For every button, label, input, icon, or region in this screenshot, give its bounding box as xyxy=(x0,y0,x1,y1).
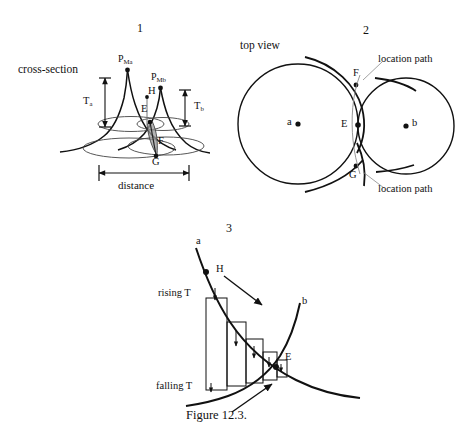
peak-a-subscript: Ma xyxy=(124,58,133,65)
panel-2-view-label: top view xyxy=(240,40,280,52)
figure-container: 1 cross-section PMa PMb Ta Tb H E F G di… xyxy=(0,0,457,440)
panel-2-point-f-label: F xyxy=(353,68,359,79)
panel-2-number: 2 xyxy=(363,24,369,36)
arrow-from-h xyxy=(224,276,262,305)
panel-1-cross-section xyxy=(60,68,210,181)
panel-2-point-e-label: E xyxy=(341,119,347,130)
falling-t-label: falling T xyxy=(156,381,192,392)
panel-2-point-g-label: G xyxy=(349,170,357,181)
rising-t-label: rising T xyxy=(158,288,191,299)
curve-a-label: a xyxy=(196,236,201,247)
peak-a-label: PMa xyxy=(118,54,133,64)
center-b-dot xyxy=(403,123,408,128)
peak-a-left-flank xyxy=(60,70,128,152)
panel-1-view-label: cross-section xyxy=(18,64,78,76)
thickness-b-label: Tb xyxy=(194,101,204,112)
location-path-label-top: location path xyxy=(378,54,433,65)
thickness-a-label: Ta xyxy=(83,96,92,107)
panel-1-point-e-label: E xyxy=(141,104,147,115)
contour-ellipse-b-upper xyxy=(137,118,189,131)
point-e-dot xyxy=(148,120,153,125)
peak-a-summit-dot xyxy=(125,68,130,73)
point-e-dot xyxy=(273,364,279,370)
curve-b-label: b xyxy=(302,296,307,307)
panel-1-point-g-label: G xyxy=(152,157,160,168)
panel-1-point-h-label: H xyxy=(148,86,156,97)
panel-1-number: 1 xyxy=(137,22,143,34)
panel-1-point-f-label: F xyxy=(158,136,164,147)
thickness-a-subscript: a xyxy=(89,100,92,107)
peak-b-summit-dot xyxy=(158,86,163,91)
panel-3-point-h-label: H xyxy=(216,264,224,275)
staircase-rectangles xyxy=(206,298,287,390)
peak-b-letter: P xyxy=(151,71,157,82)
circle-a-label: a xyxy=(287,117,292,128)
peak-a-letter: P xyxy=(118,53,124,64)
panel-3-detail xyxy=(186,248,360,412)
center-a-dot xyxy=(295,121,300,126)
point-e-dot xyxy=(355,122,361,128)
peak-b-subscript: Mb xyxy=(157,76,166,83)
panel-3-number: 3 xyxy=(226,222,232,234)
figure-caption: Figure 12.3. xyxy=(186,409,247,422)
leader-line-location-path-top xyxy=(363,62,382,80)
location-path-label-bottom: location path xyxy=(378,184,433,195)
thickness-b-subscript: b xyxy=(200,105,203,112)
distance-label: distance xyxy=(118,180,154,191)
point-h-dot xyxy=(203,269,209,275)
location-path-arc-lower-right xyxy=(376,165,414,172)
curve-b xyxy=(186,303,300,406)
panel-3-point-e-label: E xyxy=(285,352,291,363)
peak-b-label: PMb xyxy=(151,72,166,82)
circle-b-label: b xyxy=(412,118,417,129)
